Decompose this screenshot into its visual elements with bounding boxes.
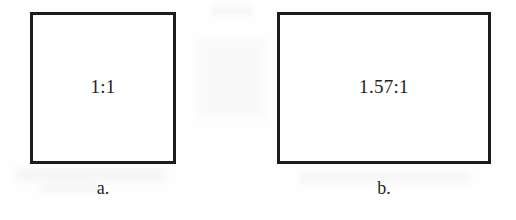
scan-artifact bbox=[212, 6, 252, 16]
figure-caption-b: b. bbox=[277, 178, 491, 199]
aspect-ratio-figure: 1:1 a. 1.57:1 b. bbox=[0, 0, 516, 220]
figure-item-b: 1.57:1 b. bbox=[277, 12, 491, 164]
figure-caption-a: a. bbox=[30, 178, 176, 199]
scan-artifact bbox=[196, 38, 266, 118]
ratio-label-b: 1.57:1 bbox=[280, 76, 488, 98]
ratio-label-a: 1:1 bbox=[33, 76, 173, 98]
square-shape: 1:1 bbox=[30, 12, 176, 164]
figure-item-a: 1:1 a. bbox=[30, 12, 176, 164]
rectangle-shape: 1.57:1 bbox=[277, 12, 491, 164]
